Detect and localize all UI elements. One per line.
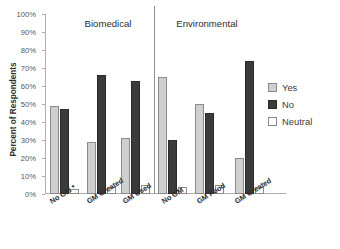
y-axis-title: Percent of Respondents: [9, 45, 18, 175]
bar-yes: [87, 142, 96, 194]
y-axis-line: [45, 14, 46, 194]
y-tick: 60%: [42, 86, 45, 87]
bar-no: [245, 61, 254, 194]
bar-yes: [121, 138, 130, 194]
bar-group: [121, 14, 157, 194]
y-tick-label: 20%: [21, 154, 36, 163]
legend-item-yes: Yes: [268, 79, 312, 96]
y-tick: 10%: [42, 176, 45, 177]
y-tick: 20%: [42, 158, 45, 159]
bar-yes: [235, 158, 244, 194]
y-tick-label: 70%: [21, 64, 36, 73]
y-tick: 50%: [42, 104, 45, 105]
bar-group: [235, 14, 271, 194]
y-tick: 90%: [42, 32, 45, 33]
y-tick-label: 100%: [17, 10, 36, 19]
legend-label-yes: Yes: [282, 82, 297, 93]
bar-chart: Percent of Respondents 100% 90% 80% 70% …: [0, 0, 340, 249]
y-tick: 80%: [42, 50, 45, 51]
bar-yes: [158, 77, 167, 194]
y-tick-label: 90%: [21, 28, 36, 37]
y-tick-label: 60%: [21, 82, 36, 91]
bar-group: [195, 14, 231, 194]
legend: Yes No Neutral: [268, 79, 312, 130]
legend-swatch-neutral-icon: [268, 117, 277, 126]
y-tick-label: 10%: [21, 172, 36, 181]
bar-yes: [195, 104, 204, 194]
y-tick-label: 40%: [21, 118, 36, 127]
bar-group: [50, 14, 86, 194]
y-tick-label: 50%: [21, 100, 36, 109]
bar-yes: [50, 106, 59, 194]
bar-no: [60, 109, 69, 194]
y-tick: 30%: [42, 140, 45, 141]
legend-item-no: No: [268, 96, 312, 113]
y-tick-label: 80%: [21, 46, 36, 55]
legend-swatch-yes-icon: [268, 83, 277, 92]
y-tick-label: 0%: [25, 190, 36, 199]
y-tick: 70%: [42, 68, 45, 69]
bar-group: [87, 14, 123, 194]
plot-area: 100% 90% 80% 70% 60% 50% 40% 30% 20% 10%…: [45, 14, 286, 194]
legend-swatch-no-icon: [268, 100, 277, 109]
y-tick-label: 30%: [21, 136, 36, 145]
bar-no: [205, 113, 214, 194]
bar-no: [97, 75, 106, 194]
bar-group: [158, 14, 194, 194]
bar-no: [168, 140, 177, 194]
legend-label-neutral: Neutral: [282, 116, 312, 127]
y-tick: 0%: [42, 194, 45, 195]
legend-label-no: No: [282, 99, 294, 110]
y-tick: 40%: [42, 122, 45, 123]
legend-item-neutral: Neutral: [268, 113, 312, 130]
y-tick: 100%: [42, 14, 45, 15]
bar-no: [131, 81, 140, 194]
